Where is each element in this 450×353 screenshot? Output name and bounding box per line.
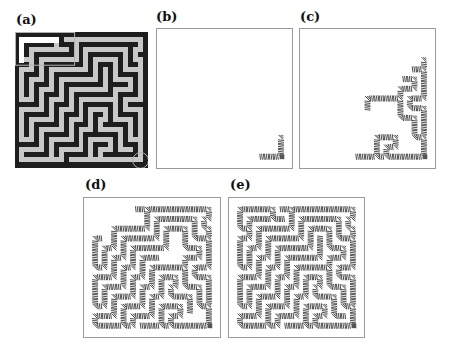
panel-d-label: (d)	[85, 177, 106, 192]
panel-c-frame	[299, 28, 436, 169]
panel-a-label: (a)	[16, 12, 37, 27]
panel-c-label: (c)	[300, 9, 320, 24]
partial-fill-image	[84, 198, 220, 337]
panel-d-frame	[83, 197, 221, 338]
panel-a-maze	[15, 32, 148, 168]
panel-e-frame	[228, 197, 365, 338]
panel-e-label: (e)	[230, 177, 251, 192]
panel-b-frame	[156, 28, 293, 169]
maze-image	[15, 32, 148, 168]
panel-b-label: (b)	[156, 9, 177, 24]
partial-fill-image	[300, 29, 435, 168]
full-fill-image	[229, 198, 364, 337]
partial-fill-image	[157, 29, 292, 168]
